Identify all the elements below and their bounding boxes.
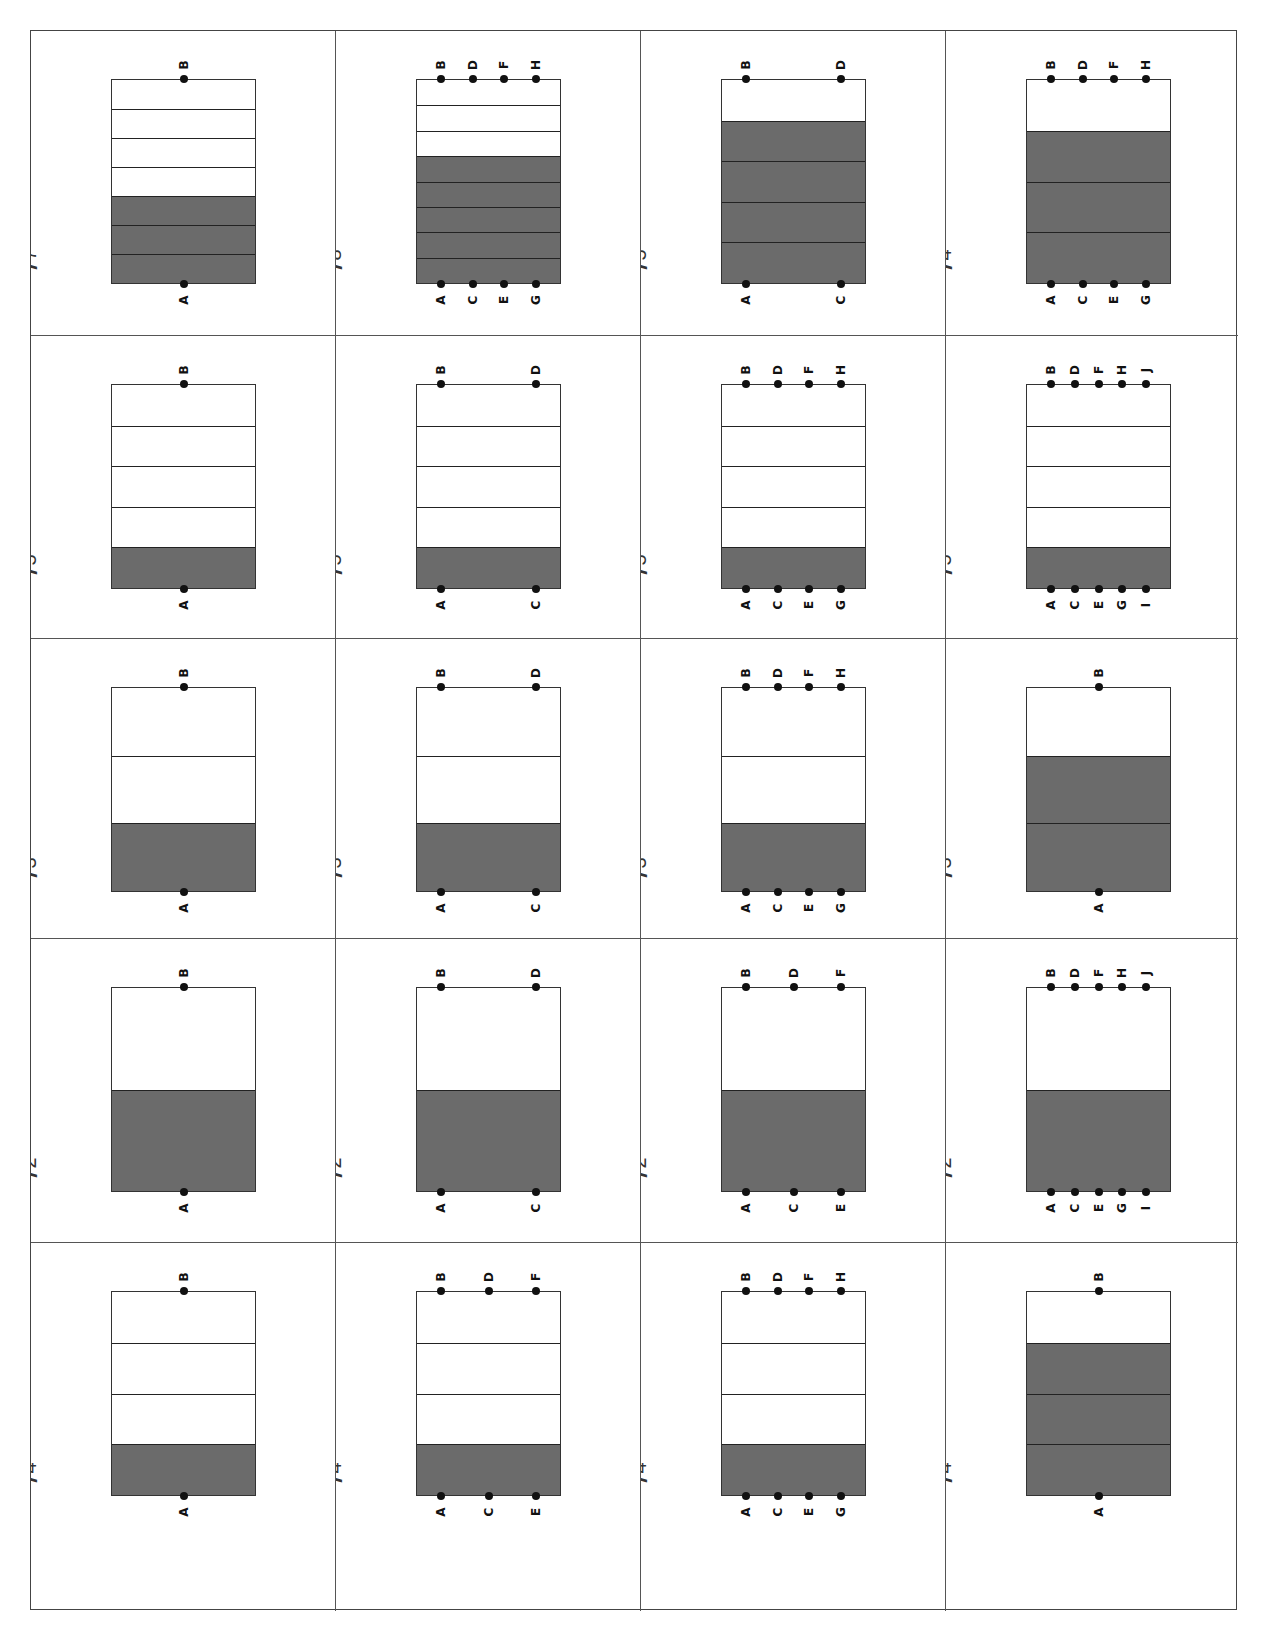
point-dot [805, 380, 813, 388]
point-label: F [529, 1273, 543, 1281]
label-text: 3/4 is also [946, 1304, 960, 1493]
point-dot [1118, 983, 1126, 991]
fraction-bar [416, 1291, 561, 1496]
partition-line [417, 547, 560, 548]
point-dot [1047, 1188, 1055, 1196]
point-label: B [177, 1272, 191, 1281]
label-text: 1/5 is also [31, 396, 45, 585]
point-label: D [529, 968, 543, 978]
partition-line [1027, 547, 1170, 548]
point-dot [1118, 1188, 1126, 1196]
partition-line [112, 1090, 255, 1091]
point-label: B [434, 968, 448, 977]
shaded-region [1027, 1090, 1170, 1192]
fraction-bar [721, 987, 866, 1192]
point-dot [1071, 380, 1079, 388]
point-dot [437, 585, 445, 593]
phrase-text: is also [946, 1354, 947, 1454]
point-label: D [529, 668, 543, 678]
point-dot [437, 1188, 445, 1196]
shaded-region [112, 1090, 255, 1192]
shaded-region [112, 196, 255, 283]
fraction-slash: / [946, 564, 960, 574]
partition-line [722, 756, 865, 757]
point-label: B [739, 968, 753, 977]
point-dot [180, 280, 188, 288]
point-dot [837, 380, 845, 388]
point-label: B [177, 668, 191, 677]
point-label: B [1044, 968, 1058, 977]
problem-cell: 1/4 is alsoBA [31, 1243, 336, 1611]
label-text: 1/4 is also [336, 1304, 350, 1493]
point-label: A [1092, 1507, 1106, 1516]
point-dot [742, 585, 750, 593]
fraction-slash: / [641, 564, 655, 574]
fraction: 3/4 [946, 249, 960, 280]
point-label: A [739, 1203, 753, 1212]
fraction-bar [721, 1291, 866, 1496]
fraction-bar [111, 384, 256, 589]
fraction-slash: / [336, 564, 350, 574]
fraction-slash: / [31, 564, 45, 574]
point-label: A [177, 1203, 191, 1212]
fraction-bar [1026, 1291, 1171, 1496]
partition-line [112, 1343, 255, 1344]
point-label: B [434, 1272, 448, 1281]
point-label: G [1139, 295, 1153, 305]
phrase-text: is also [31, 141, 32, 241]
fraction-bar [1026, 384, 1171, 589]
point-label: C [529, 904, 543, 913]
shaded-region [112, 1444, 255, 1495]
point-dot [1095, 1188, 1103, 1196]
point-dot [437, 1492, 445, 1500]
partition-line [1027, 232, 1170, 233]
point-label: A [1092, 903, 1106, 912]
point-dot [532, 1188, 540, 1196]
point-dot [469, 280, 477, 288]
problem-cell: 5/8 is alsoBDFHACEG [336, 31, 641, 336]
point-dot [180, 380, 188, 388]
fraction-denominator: 2 [336, 1157, 346, 1169]
partition-line [722, 161, 865, 162]
partition-line [1027, 466, 1170, 467]
partition-line [1027, 823, 1170, 824]
point-dot [1142, 380, 1150, 388]
point-dot [1047, 380, 1055, 388]
fraction-bar [721, 687, 866, 892]
phrase-text: is also [336, 141, 337, 241]
point-label: D [529, 365, 543, 375]
phrase-text: is also [946, 446, 947, 546]
point-dot [1047, 983, 1055, 991]
fraction-slash: / [946, 259, 960, 269]
point-label: A [177, 600, 191, 609]
fraction: 1/5 [31, 554, 45, 585]
partition-line [417, 232, 560, 233]
fraction-denominator: 2 [946, 1157, 956, 1169]
partition-line [417, 156, 560, 157]
label-text: 3/7 is also [31, 91, 45, 280]
fraction-slash: / [946, 1167, 960, 1177]
point-label: A [1044, 295, 1058, 304]
label-text: 1/2 is also [641, 999, 655, 1188]
point-dot [532, 1287, 540, 1295]
point-label: E [1107, 296, 1121, 304]
phrase-text: is also [336, 749, 337, 849]
fraction-slash: / [336, 1167, 350, 1177]
partition-line [722, 507, 865, 508]
partition-line [112, 547, 255, 548]
partition-line [1027, 131, 1170, 132]
point-label: C [1068, 601, 1082, 610]
phrase-text: is also [641, 749, 642, 849]
fraction: 1/3 [336, 857, 350, 888]
point-dot [1079, 75, 1087, 83]
point-dot [1118, 380, 1126, 388]
fraction-bar [111, 987, 256, 1192]
point-label: A [434, 600, 448, 609]
point-label: C [529, 601, 543, 610]
point-dot [774, 585, 782, 593]
point-label: B [1092, 668, 1106, 677]
phrase-text: is also [31, 446, 32, 546]
point-dot [532, 888, 540, 896]
point-dot [1095, 585, 1103, 593]
partition-line [722, 1090, 865, 1091]
